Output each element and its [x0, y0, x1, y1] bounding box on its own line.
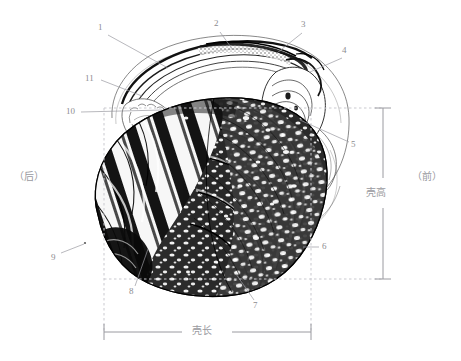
callout-label-7: 7	[253, 301, 258, 310]
callout-label-11: 11	[85, 74, 94, 83]
callout-label-1: 1	[98, 23, 103, 32]
callout-label-3: 3	[301, 20, 306, 29]
posterior-label: （后）	[14, 172, 44, 182]
leader-4	[310, 58, 342, 72]
leader-1	[108, 35, 168, 68]
shell-illustration	[0, 0, 461, 361]
leader-9-tip	[84, 242, 86, 244]
leader-9	[61, 244, 84, 253]
shell-length-label: 壳长	[192, 326, 212, 336]
callout-label-10: 10	[66, 107, 75, 116]
callout-label-9: 9	[51, 253, 56, 262]
shell-height-label: 壳高	[366, 188, 386, 198]
callout-label-2: 2	[214, 19, 219, 28]
callout-label-6: 6	[322, 242, 327, 251]
callout-label-4: 4	[342, 46, 347, 55]
anterior-label: （前）	[412, 172, 442, 182]
figure-container: 1 2 3 4 5 6 7 8 9 10 11 （后） （前） 壳高 壳长	[0, 0, 461, 361]
callout-label-5: 5	[351, 140, 356, 149]
callout-label-8: 8	[129, 287, 134, 296]
